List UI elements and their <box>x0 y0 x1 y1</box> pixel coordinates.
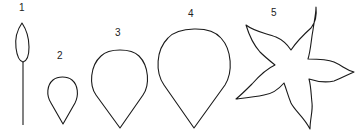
shape-5-label: 5 <box>271 7 277 18</box>
shape-3-medium-teardrop <box>92 50 148 128</box>
shapes-canvas <box>0 0 364 138</box>
shape-3-label: 3 <box>115 27 121 38</box>
shape-1-leaf-with-stem <box>16 23 29 125</box>
shape-2-label: 2 <box>57 50 63 61</box>
shape-5-star-flower <box>236 7 354 129</box>
shape-2-small-teardrop <box>48 77 78 124</box>
shape-1-label: 1 <box>19 2 25 13</box>
shape-4-label: 4 <box>188 8 194 19</box>
shape-4-large-teardrop <box>158 29 230 128</box>
